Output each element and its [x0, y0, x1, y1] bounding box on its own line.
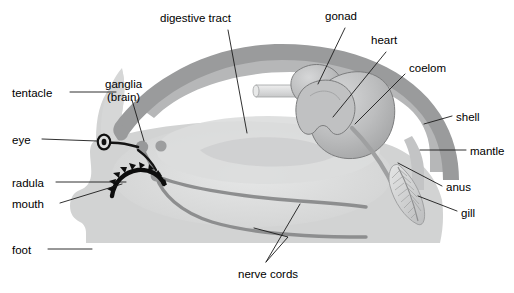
- label-tentacle-text: tentacle: [12, 87, 52, 99]
- label-anus: anus: [446, 181, 471, 194]
- label-eye-text: eye: [12, 134, 31, 146]
- label-foot-text: foot: [12, 244, 31, 256]
- label-gonad-text: gonad: [325, 10, 357, 22]
- label-eye: eye: [12, 134, 31, 147]
- label-nerve-cords: nerve cords: [238, 268, 298, 281]
- label-shell: shell: [456, 111, 480, 124]
- label-gonad: gonad: [325, 10, 357, 23]
- diagram-canvas: [0, 0, 514, 293]
- label-digestive-tract-text: digestive tract: [160, 12, 231, 24]
- label-shell-text: shell: [456, 111, 480, 123]
- digestive-tube-end: [253, 85, 259, 97]
- label-gill-text: gill: [461, 207, 475, 219]
- label-radula: radula: [12, 177, 44, 190]
- heart-shape: [296, 80, 355, 134]
- label-mouth: mouth: [12, 198, 44, 211]
- label-mantle: mantle: [470, 145, 505, 158]
- label-ganglia-text: ganglia: [105, 78, 142, 91]
- label-heart-text: heart: [371, 34, 397, 46]
- eye-pupil: [102, 139, 107, 145]
- label-nerve-cords-text: nerve cords: [238, 268, 298, 280]
- mollusc-anatomy-diagram: digestive tract gonad heart coelom tenta…: [0, 0, 514, 293]
- label-foot: foot: [12, 244, 31, 257]
- label-ganglia-brain-text: (brain): [105, 91, 142, 104]
- label-mantle-text: mantle: [470, 145, 505, 157]
- eye: [98, 135, 110, 150]
- label-gill: gill: [461, 207, 475, 220]
- label-tentacle: tentacle: [12, 87, 52, 100]
- label-anus-text: anus: [446, 181, 471, 193]
- label-ganglia: ganglia (brain): [105, 78, 142, 104]
- ganglion-pedal: [155, 140, 166, 151]
- label-digestive-tract: digestive tract: [160, 12, 231, 25]
- label-coelom-text: coelom: [409, 62, 446, 74]
- leader-eye: [42, 139, 97, 141]
- label-coelom: coelom: [409, 62, 446, 75]
- label-mouth-text: mouth: [12, 198, 44, 210]
- label-heart: heart: [371, 34, 397, 47]
- label-radula-text: radula: [12, 177, 44, 189]
